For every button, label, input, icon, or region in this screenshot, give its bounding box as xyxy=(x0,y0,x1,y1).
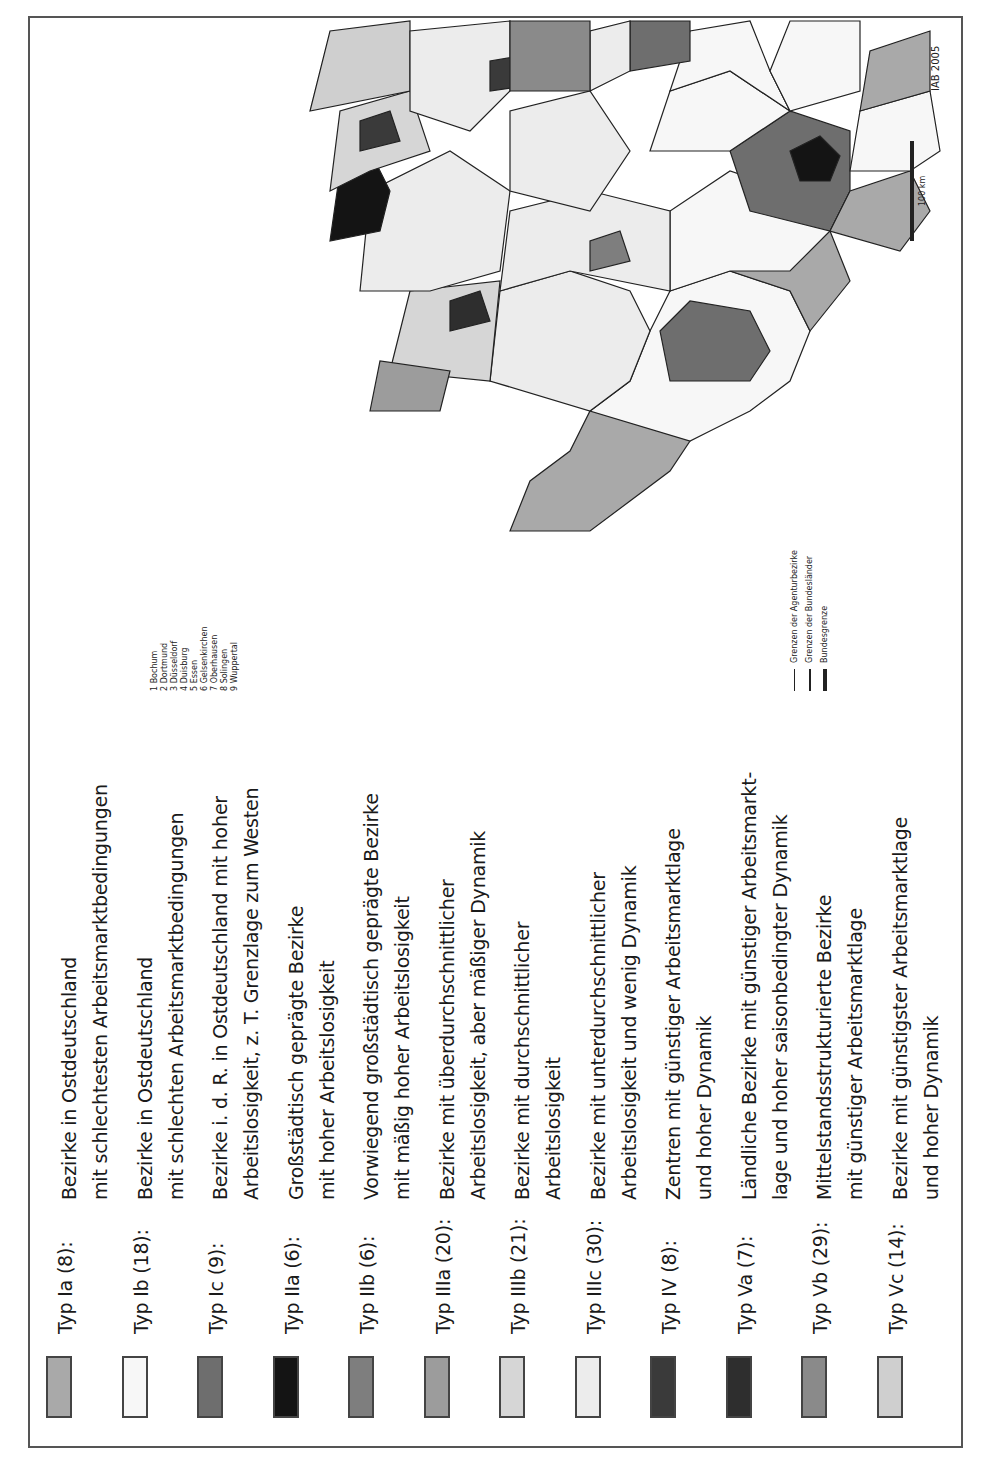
scale-label: 100 km xyxy=(918,176,927,206)
legend: Typ Ia (8):Bezirke in Ostdeutschlandmit … xyxy=(30,706,965,1446)
legend-swatch xyxy=(650,1356,676,1418)
germany-map: 1 Bochum2 Dortmund3 Düsseldorf4 Duisburg… xyxy=(30,14,965,711)
legend-type-label: Typ IIIa (20): xyxy=(432,1219,454,1334)
legend-description: Bezirke i. d. R. in Ostdeutschland mit h… xyxy=(205,788,267,1200)
legend-item: Typ IIIb (21):Bezirke mit durchschnittli… xyxy=(495,706,565,1446)
boundary-legend-label: Bundesgrenze xyxy=(820,606,829,663)
legend-description-line: Bezirke mit unterdurchschnittlicher xyxy=(583,866,614,1201)
ruhr-city-item: 9 Wuppertal xyxy=(230,626,240,691)
legend-description-line: Mittelstandsstrukturierte Bezirke xyxy=(809,895,840,1200)
legend-description-line: Arbeitslosigkeit, z. T. Grenzlage zum We… xyxy=(236,788,267,1200)
legend-description: Großstädtisch geprägte Bezirkemit hoher … xyxy=(281,906,343,1200)
ruhr-city-item: 7 Oberhausen xyxy=(210,626,220,691)
legend-item: Typ IIa (6):Großstädtisch geprägte Bezir… xyxy=(269,706,339,1446)
ruhr-city-item: 4 Duisburg xyxy=(180,626,190,691)
region-hessen-north xyxy=(510,91,630,211)
legend-description-line: mit mäßig hoher Arbeitslosigkeit xyxy=(387,793,418,1200)
legend-description: Bezirke mit durchschnittlicherArbeitslos… xyxy=(507,922,569,1200)
boundary-legend-label: Grenzen der Agenturbezirke xyxy=(790,550,799,663)
legend-type-label: Typ IIIb (21): xyxy=(507,1218,529,1334)
boundary-line-sample xyxy=(809,669,811,691)
ruhr-city-item: 6 Gelsenkirchen xyxy=(200,626,210,691)
legend-description-line: Bezirke mit durchschnittlicher xyxy=(507,922,538,1200)
legend-description-line: mit hoher Arbeitslosigkeit xyxy=(312,906,343,1200)
legend-item: Typ Vc (14):Bezirke mit günstigster Arbe… xyxy=(873,706,943,1446)
legend-description: Bezirke in Ostdeutschlandmit schlechten … xyxy=(130,813,192,1200)
boundary-legend-label: Grenzen der Bundesländer xyxy=(805,556,814,663)
legend-type-label: Typ Vb (29): xyxy=(809,1222,831,1334)
legend-item: Typ IIIc (30):Bezirke mit unterdurchschn… xyxy=(571,706,641,1446)
legend-description-line: Arbeitslosigkeit, aber mäßiger Dynamik xyxy=(463,831,494,1200)
legend-item: Typ IV (8):Zentren mit günstiger Arbeits… xyxy=(646,706,716,1446)
legend-description-line: Bezirke mit überdurchschnittlicher xyxy=(432,831,463,1200)
ruhr-city-item: 8 Solingen xyxy=(220,626,230,691)
legend-swatch xyxy=(877,1356,903,1418)
legend-description-line: Bezirke in Ostdeutschland xyxy=(54,784,85,1200)
legend-item: Typ Ia (8):Bezirke in Ostdeutschlandmit … xyxy=(42,706,112,1446)
legend-item: Typ Ic (9):Bezirke i. d. R. in Ostdeutsc… xyxy=(193,706,263,1446)
ruhr-city-item: 2 Dortmund xyxy=(160,626,170,691)
legend-item: Typ IIIa (20):Bezirke mit überdurchschni… xyxy=(420,706,490,1446)
ruhr-city-item: 1 Bochum xyxy=(150,626,160,691)
legend-type-label: Typ Ia (8): xyxy=(54,1242,76,1334)
legend-description: Ländliche Bezirke mit günstiger Arbeitsm… xyxy=(734,772,796,1200)
legend-description: Bezirke mit überdurchschnittlicherArbeit… xyxy=(432,831,494,1200)
ruhr-city-list: 1 Bochum2 Dortmund3 Düsseldorf4 Duisburg… xyxy=(150,626,240,691)
legend-description-line: mit schlechtesten Arbeitsmarktbedingunge… xyxy=(85,784,116,1200)
scale-bar xyxy=(910,141,914,241)
legend-description: Bezirke mit günstigster Arbeitsmarktlage… xyxy=(885,817,947,1200)
legend-swatch xyxy=(726,1356,752,1418)
legend-type-label: Typ Va (7): xyxy=(734,1236,756,1334)
legend-description-line: lage und hoher saisonbedingter Dynamik xyxy=(765,772,796,1200)
legend-description-line: Vorwiegend großstädtisch geprägte Bezirk… xyxy=(356,793,387,1200)
legend-item: Typ Ib (18):Bezirke in Ostdeutschlandmit… xyxy=(118,706,188,1446)
legend-description-line: mit schlechten Arbeitsmarktbedingungen xyxy=(161,813,192,1200)
legend-description: Bezirke mit unterdurchschnittlicherArbei… xyxy=(583,866,645,1201)
region-chemnitz-riesa xyxy=(770,21,860,111)
legend-description: Mittelstandsstrukturierte Bezirkemit gün… xyxy=(809,895,871,1200)
legend-type-label: Typ Vc (14): xyxy=(885,1224,907,1334)
legend-type-label: Typ Ic (9): xyxy=(205,1243,227,1334)
legend-type-label: Typ IV (8): xyxy=(658,1240,680,1334)
legend-swatch xyxy=(348,1356,374,1418)
legend-type-label: Typ Ib (18): xyxy=(130,1229,152,1334)
legend-description-line: Zentren mit günstiger Arbeitsmarktlage xyxy=(658,828,689,1200)
legend-description-line: Arbeitslosigkeit und wenig Dynamik xyxy=(614,866,645,1201)
legend-description-line: Bezirke mit günstigster Arbeitsmarktlage xyxy=(885,817,916,1200)
legend-description-line: Arbeitslosigkeit xyxy=(538,922,569,1200)
legend-description-line: Großstädtisch geprägte Bezirke xyxy=(281,906,312,1200)
boundary-line-sample xyxy=(794,669,795,691)
legend-description-line: Bezirke in Ostdeutschland xyxy=(130,813,161,1200)
figure-frame: Typ Ia (8):Bezirke in Ostdeutschlandmit … xyxy=(28,16,963,1448)
legend-description: Zentren mit günstiger Arbeitsmarktlageun… xyxy=(658,828,720,1200)
map-regions xyxy=(310,21,940,531)
legend-swatch xyxy=(46,1356,72,1418)
legend-description-line: und hoher Dynamik xyxy=(916,817,947,1200)
boundary-legend-item: Grenzen der Agenturbezirke xyxy=(790,550,799,691)
legend-swatch xyxy=(801,1356,827,1418)
boundary-line-sample xyxy=(823,669,827,691)
boundary-legend-item: Bundesgrenze xyxy=(820,550,829,691)
legend-swatch xyxy=(122,1356,148,1418)
legend-description: Bezirke in Ostdeutschlandmit schlechtest… xyxy=(54,784,116,1200)
legend-type-label: Typ IIb (6): xyxy=(356,1236,378,1334)
ruhr-city-item: 3 Düsseldorf xyxy=(170,626,180,691)
boundary-legend: Grenzen der AgenturbezirkeGrenzen der Bu… xyxy=(790,550,835,691)
legend-description: Vorwiegend großstädtisch geprägte Bezirk… xyxy=(356,793,418,1200)
legend-item: Typ IIb (6):Vorwiegend großstädtisch gep… xyxy=(344,706,414,1446)
ruhr-city-item: 5 Essen xyxy=(190,626,200,691)
legend-type-label: Typ IIIc (30): xyxy=(583,1220,605,1334)
legend-description-line: Bezirke i. d. R. in Ostdeutschland mit h… xyxy=(205,788,236,1200)
legend-description-line: mit günstiger Arbeitsmarktlage xyxy=(840,895,871,1200)
legend-item: Typ Va (7):Ländliche Bezirke mit günstig… xyxy=(722,706,792,1446)
legend-swatch xyxy=(575,1356,601,1418)
boundary-legend-item: Grenzen der Bundesländer xyxy=(805,550,814,691)
region-erfurt xyxy=(590,21,630,91)
legend-swatch xyxy=(273,1356,299,1418)
region-bw-north xyxy=(510,21,590,91)
legend-description-line: Ländliche Bezirke mit günstiger Arbeitsm… xyxy=(734,772,765,1200)
legend-swatch xyxy=(197,1356,223,1418)
legend-swatch xyxy=(424,1356,450,1418)
legend-type-label: Typ IIa (6): xyxy=(281,1236,303,1334)
legend-swatch xyxy=(499,1356,525,1418)
